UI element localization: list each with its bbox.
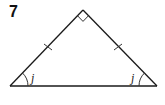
angle-label-left: j <box>29 71 35 85</box>
angle-arc-left <box>23 73 29 86</box>
right-leg <box>83 10 157 86</box>
angle-label-right: j <box>129 71 135 85</box>
right-angle-marker <box>78 16 89 22</box>
angle-arc-right <box>139 73 145 86</box>
left-leg <box>10 10 83 86</box>
triangle-figure: j j <box>0 0 165 105</box>
